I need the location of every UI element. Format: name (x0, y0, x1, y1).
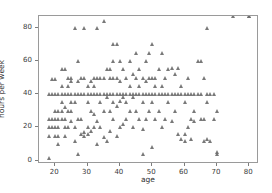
data-point-marker (153, 84, 157, 88)
data-point-marker (86, 84, 90, 88)
data-point-marker (186, 76, 190, 80)
x-tick-label: 60 (179, 169, 188, 176)
data-point-marker (153, 117, 157, 121)
data-point-marker (141, 100, 145, 104)
data-point-marker (66, 84, 70, 88)
data-point-marker (82, 76, 86, 80)
data-point-marker (157, 67, 161, 71)
data-point-marker (179, 84, 183, 88)
x-tick-mark (151, 163, 152, 166)
data-point-marker (199, 92, 203, 96)
data-point-marker (163, 76, 167, 80)
data-point-marker (108, 129, 112, 133)
data-point-marker (192, 119, 196, 123)
data-point-marker (92, 125, 96, 129)
data-point-marker (176, 132, 180, 136)
data-point-marker (153, 76, 157, 80)
data-point-marker (186, 125, 190, 129)
plot-area (38, 15, 258, 163)
data-point-marker (137, 67, 141, 71)
data-point-marker (124, 76, 128, 80)
data-point-marker (215, 152, 219, 156)
data-point-marker (176, 66, 180, 70)
data-point-marker (202, 117, 206, 121)
data-point-marker (183, 132, 187, 136)
data-point-marker (69, 76, 73, 80)
data-point-marker (124, 117, 128, 121)
data-point-marker (131, 125, 135, 129)
data-point-marker (47, 134, 51, 138)
data-point-marker (108, 109, 112, 113)
data-point-marker (95, 142, 99, 146)
data-point-marker (208, 139, 212, 143)
data-point-marker (76, 152, 80, 156)
data-point-marker (56, 134, 60, 138)
data-point-marker (215, 109, 219, 113)
x-tick-label: 80 (244, 169, 253, 176)
data-point-marker (160, 84, 164, 88)
data-point-marker (189, 137, 193, 141)
data-point-marker (202, 76, 206, 80)
data-point-marker (102, 109, 106, 113)
data-point-marker (86, 100, 90, 104)
x-axis-title: age (141, 176, 155, 184)
data-point-marker (95, 119, 99, 123)
data-point-marker (205, 100, 209, 104)
data-point-marker (150, 145, 154, 149)
data-point-marker (137, 117, 141, 121)
data-point-marker (73, 100, 77, 104)
x-tick-label: 30 (82, 169, 91, 176)
data-point-marker (73, 139, 77, 143)
data-point-marker (92, 112, 96, 116)
data-point-marker (160, 125, 164, 129)
data-point-marker (134, 76, 138, 80)
data-point-marker (92, 84, 96, 88)
x-tick-mark (119, 163, 120, 166)
data-point-marker (69, 109, 73, 113)
data-point-marker (170, 66, 174, 70)
data-point-marker (183, 100, 187, 104)
data-point-marker (56, 125, 60, 129)
data-point-marker (199, 59, 203, 63)
data-point-marker (212, 117, 216, 121)
x-tick-mark (216, 163, 217, 166)
data-point-marker (111, 59, 115, 63)
data-point-marker (141, 127, 145, 131)
data-point-marker (128, 109, 132, 113)
data-point-marker (147, 109, 151, 113)
data-point-marker (173, 72, 177, 76)
x-tick-label: 40 (114, 169, 123, 176)
data-point-marker (144, 59, 148, 63)
data-point-marker (73, 26, 77, 30)
data-point-marker (121, 122, 125, 126)
data-point-marker (108, 67, 112, 71)
data-point-marker (115, 134, 119, 138)
data-point-marker (183, 139, 187, 143)
data-point-marker (170, 119, 174, 123)
data-point-marker (79, 117, 83, 121)
data-point-marker (63, 67, 67, 71)
data-point-marker (60, 84, 64, 88)
data-point-marker (76, 59, 80, 63)
data-point-marker (150, 42, 154, 46)
data-point-marker (137, 84, 141, 88)
data-point-marker (105, 139, 109, 143)
data-point-marker (115, 104, 119, 108)
data-points-layer (39, 16, 257, 162)
x-tick-mark (87, 163, 88, 166)
scatter-plot-figure: hours per week 020406080 20304050607080 … (0, 0, 272, 193)
data-point-marker (69, 119, 73, 123)
data-point-marker (166, 100, 170, 104)
data-point-marker (63, 134, 67, 138)
data-point-marker (247, 15, 251, 18)
data-point-marker (205, 26, 209, 30)
data-point-marker (124, 100, 128, 104)
data-point-marker (141, 152, 145, 156)
data-point-marker (53, 77, 57, 81)
data-point-marker (128, 59, 132, 63)
data-point-marker (82, 26, 86, 30)
data-point-marker (160, 51, 164, 55)
data-point-marker (111, 117, 115, 121)
data-point-marker (192, 109, 196, 113)
data-point-marker (95, 26, 99, 30)
